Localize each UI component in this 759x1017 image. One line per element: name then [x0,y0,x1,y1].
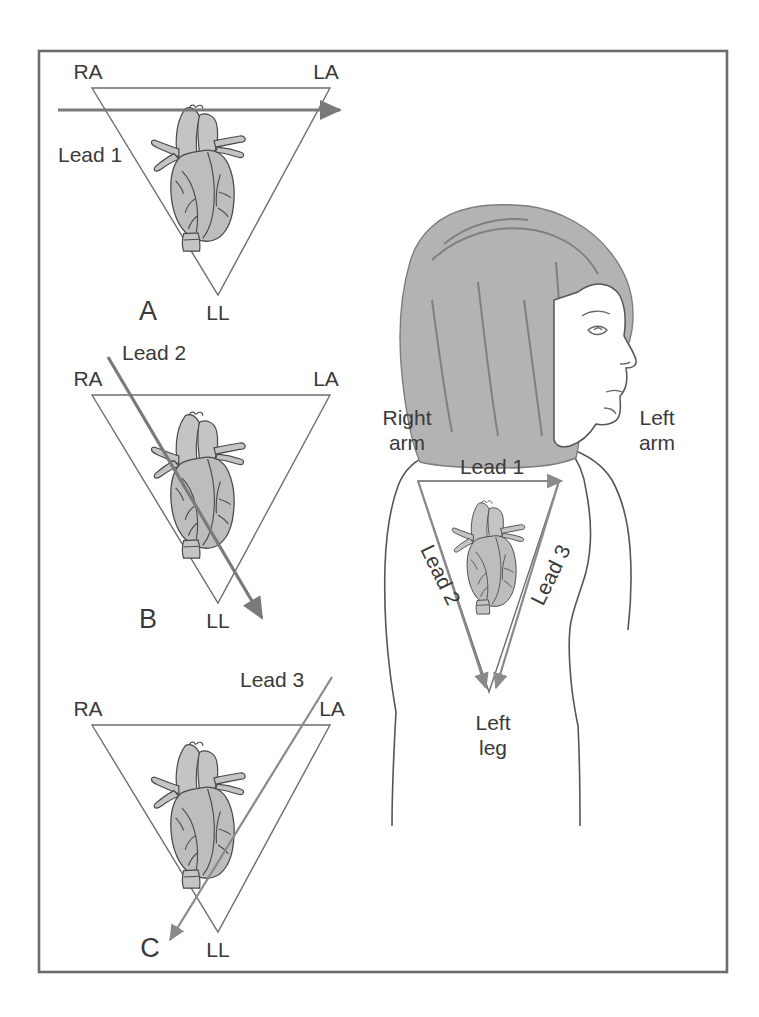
panel-a-label-ll: LL [206,301,229,324]
panel-c-label-ra: RA [73,697,102,720]
right-arm-outline [385,454,432,712]
left-arm-label-line2: arm [639,431,675,454]
torso-lead1-label: Lead 1 [460,455,524,478]
left-leg-label-line1: Left [475,711,510,734]
panel-b-label-ll: LL [206,609,229,632]
panel-a-lead1-label: Lead 1 [58,143,122,166]
panel-a-label-ra: RA [73,60,102,83]
panel-a-heart-icon [151,105,245,251]
panel-c-lead3-label: Lead 3 [240,668,304,691]
panel-b-label: B [139,604,157,634]
right-arm-label-line2: arm [389,431,425,454]
left-arm-label-line1: Left [639,406,674,429]
face-profile [554,284,636,447]
panel-c: RA LA LL Lead 3 C [73,668,344,963]
panel-b-lead2-arrow [108,357,262,618]
panel-a-label-la: LA [313,60,339,83]
panel-b: RA LA LL Lead 2 B [73,341,338,634]
panel-b-label-la: LA [313,367,339,390]
panel-c-label-la: LA [319,697,345,720]
left-leg-label-line2: leg [479,736,507,759]
panel-a: RA LA LL Lead 1 A [58,60,340,326]
torso-figure: Lead 1 Lead 2 Lead 3 Right arm Left arm … [382,205,675,826]
panel-b-heart-icon [151,412,245,558]
panel-b-label-ra: RA [73,367,102,390]
left-side-outline [578,726,580,826]
ecg-lead-diagram: RA LA LL Lead 1 A RA LA LL Lead 2 B RA L… [0,0,759,1017]
figure-root: RA LA LL Lead 1 A RA LA LL Lead 2 B RA L… [0,0,759,1017]
panel-c-heart-icon [151,742,245,888]
panel-a-label: A [139,296,157,326]
panel-b-lead2-label: Lead 2 [122,341,186,364]
left-arm-outline [568,448,631,630]
left-torso-outline [569,490,590,726]
panel-c-label-ll: LL [206,938,229,961]
right-side-outline [392,712,396,826]
right-arm-label-line1: Right [382,406,431,429]
panel-c-label: C [140,933,160,963]
torso-lead3-label: Lead 3 [526,541,575,609]
